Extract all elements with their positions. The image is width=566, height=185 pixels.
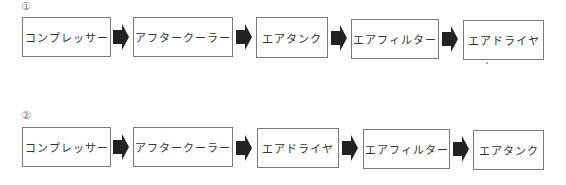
step-air-filter: エアフィルター <box>363 129 450 169</box>
right-arrow-icon <box>236 135 252 161</box>
right-arrow-icon <box>442 26 458 52</box>
step-air-dryer: エアドライヤ <box>463 20 544 60</box>
step-compressor: コンプレッサー <box>22 17 111 57</box>
right-arrow-icon <box>113 134 129 160</box>
step-aftercooler: アフタークーラー <box>133 127 233 167</box>
row-marker-1: ① <box>21 1 31 12</box>
step-air-dryer: エアドライヤ <box>257 128 339 168</box>
row-marker-2: ② <box>21 110 31 121</box>
step-compressor: コンプレッサー <box>22 127 111 167</box>
step-air-tank: エアタンク <box>256 17 328 58</box>
step-aftercooler: アフタークーラー <box>133 17 233 57</box>
stray-dot <box>486 62 488 64</box>
right-arrow-icon <box>453 136 469 162</box>
step-air-filter: エアフィルター <box>351 19 439 59</box>
right-arrow-icon <box>342 135 358 161</box>
right-arrow-icon <box>331 25 347 51</box>
step-air-tank: エアタンク <box>473 130 544 170</box>
right-arrow-icon <box>236 24 252 50</box>
right-arrow-icon <box>113 24 129 50</box>
